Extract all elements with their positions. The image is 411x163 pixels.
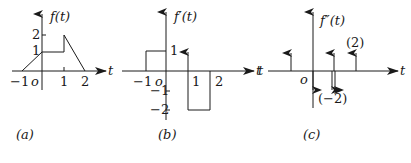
panel-a-caption: (a) bbox=[16, 127, 34, 142]
y-tick-label-1: 1 bbox=[170, 43, 178, 58]
x-axis-label: t bbox=[400, 63, 406, 78]
y-axis-label: f″(t) bbox=[319, 13, 345, 28]
x-tick-label-2: 2 bbox=[81, 74, 89, 89]
x-tick-label-2: 2 bbox=[215, 74, 223, 89]
positive-pulse bbox=[146, 51, 166, 71]
impulse-label-2: (2) bbox=[346, 35, 364, 50]
x-tick-label-neg1: −1 bbox=[10, 74, 29, 89]
figure-canvas: f(t) 2 1 −1 o 1 2 t (a) f′(t) 1 −1 −2 −1… bbox=[0, 0, 411, 163]
origin-label: o bbox=[300, 72, 308, 87]
y-axis-label: f′(t) bbox=[173, 9, 197, 24]
x-axis-left-t: t bbox=[258, 63, 264, 78]
origin-label: o bbox=[155, 74, 163, 89]
x-tick-label-neg1: −1 bbox=[133, 74, 152, 89]
impulse-label-neg2: (−2) bbox=[318, 91, 347, 106]
y-tick-label-2: 2 bbox=[32, 27, 40, 42]
panel-c: f″(t) o (2) (−2) t t (c) bbox=[258, 12, 406, 142]
panel-b-caption: (b) bbox=[158, 127, 176, 142]
y-tick-label-1: 1 bbox=[32, 43, 40, 58]
x-tick-label-1: 1 bbox=[192, 74, 200, 89]
panel-a: f(t) 2 1 −1 o 1 2 t (a) bbox=[10, 9, 114, 142]
panel-c-caption: (c) bbox=[303, 127, 320, 142]
origin-label: o bbox=[31, 74, 39, 89]
y-axis-label: f(t) bbox=[49, 9, 70, 24]
x-axis-label: t bbox=[108, 63, 114, 78]
x-tick-label-1: 1 bbox=[60, 74, 68, 89]
panel-b: f′(t) 1 −1 −2 −1 o 1 2 t (b) bbox=[122, 9, 262, 142]
y-tick-label-neg2: −2 bbox=[150, 102, 169, 117]
